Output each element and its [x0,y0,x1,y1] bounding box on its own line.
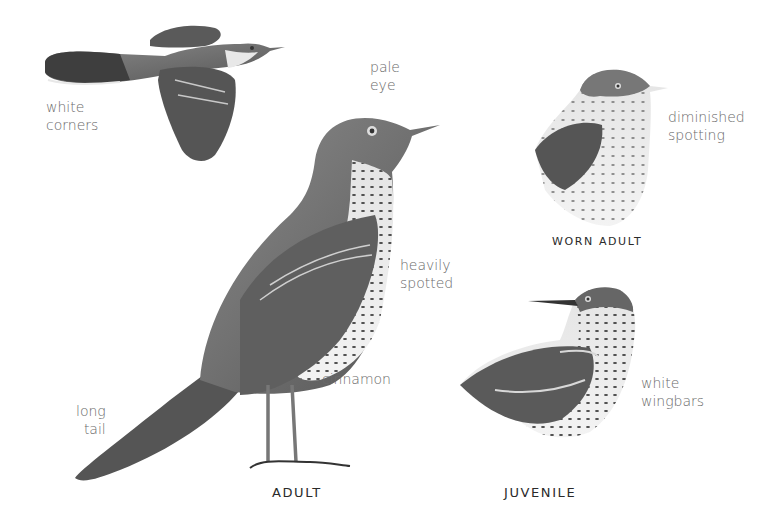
label-line: white [46,98,98,116]
label-heavily-spotted: heavily spotted [400,256,453,292]
label-pale-eye: pale eye [370,58,400,94]
label-line: white [641,374,704,392]
juvenile-bird [460,287,635,437]
caption-juvenile: JUVENILE [504,485,576,500]
caption-worn-adult: WORN ADULT [552,235,642,248]
adult-bird [75,118,440,480]
label-line: long [76,402,106,420]
label-line: spotting [668,126,745,144]
label-line: eye [370,76,400,94]
label-long-tail: long tail [76,402,106,438]
label-line: spotted [400,274,453,292]
field-guide-plate: white corners pale eye heavily spotted c… [0,0,784,525]
label-line: diminished [668,108,745,126]
label-line: pale [370,58,400,76]
label-white-wingbars: white wingbars [641,374,704,410]
label-line: tail [76,420,106,438]
label-line: heavily [400,256,453,274]
label-cinnamon: cinnamon [322,370,391,388]
flying-bird [45,26,285,161]
label-diminished-spotting: diminished spotting [668,108,745,144]
label-line: wingbars [641,392,704,410]
label-line: corners [46,116,98,134]
worn-adult-bird [535,70,668,226]
label-white-corners: white corners [46,98,98,134]
caption-adult: ADULT [272,485,322,500]
label-line: cinnamon [322,370,391,388]
